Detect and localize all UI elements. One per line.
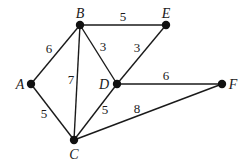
edges-group: [31, 25, 222, 140]
node-d: [113, 80, 121, 88]
edge-weight-c-f: 8: [134, 101, 141, 116]
edge-weight-d-f: 6: [163, 68, 170, 83]
node-label-d: D: [98, 77, 109, 92]
node-label-f: F: [228, 77, 238, 92]
edge-weight-a-b: 6: [46, 41, 53, 56]
edge-weight-d-e: 3: [134, 40, 141, 55]
node-label-b: B: [76, 6, 85, 21]
edge-d-e: [117, 25, 166, 84]
node-c: [70, 136, 78, 144]
edge-a-c: [31, 84, 74, 140]
node-e: [162, 21, 170, 29]
edge-weight-b-c: 7: [68, 72, 75, 87]
node-f: [218, 80, 226, 88]
node-a: [27, 80, 35, 88]
nodes-group: [27, 21, 226, 144]
node-b: [76, 21, 84, 29]
node-label-a: A: [15, 77, 25, 92]
edge-b-c: [74, 25, 80, 140]
node-label-c: C: [69, 147, 79, 162]
edge-weight-b-e: 5: [120, 9, 127, 24]
edge-weight-b-d: 3: [100, 39, 107, 54]
node-label-e: E: [161, 6, 171, 21]
edge-weight-a-c: 5: [41, 106, 48, 121]
edge-b-d: [80, 25, 117, 84]
edge-weight-c-d: 5: [102, 102, 109, 117]
graph-diagram: 657353568 ABCDEF: [0, 0, 245, 166]
